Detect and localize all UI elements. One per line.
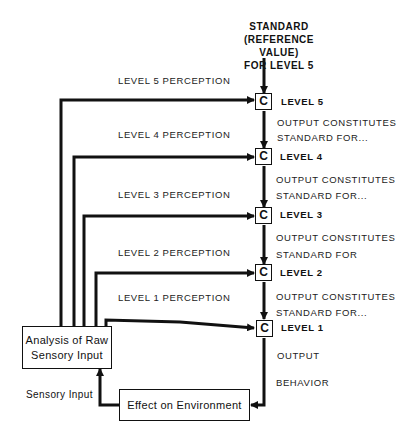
- analysis-box-line-1: Analysis of Raw: [26, 333, 109, 348]
- comparator-level-1: C: [256, 320, 273, 337]
- standard-reference-label: STANDARD (REFERENCE VALUE) FOR LEVEL 5: [224, 20, 334, 72]
- level-2-output-line-1: OUTPUT CONSTITUTES: [276, 292, 395, 302]
- level-2-output-line-2: STANDARD FOR...: [276, 308, 367, 318]
- behavior-label: BEHAVIOR: [276, 378, 329, 388]
- level-5-label: LEVEL 5: [281, 97, 324, 107]
- standard-line-1: STANDARD: [224, 20, 334, 33]
- comparator-level-5: C: [255, 93, 272, 110]
- level-4-perception-label: LEVEL 4 PERCEPTION: [118, 130, 230, 140]
- level-5-output-line-2: STANDARD FOR...: [277, 133, 368, 143]
- level-1-perception-label: LEVEL 1 PERCEPTION: [118, 293, 230, 303]
- effect-on-environment-label: Effect on Environment: [127, 399, 241, 411]
- level-1-label: LEVEL 1: [281, 323, 324, 333]
- standard-line-3: FOR LEVEL 5: [224, 59, 334, 72]
- level-4-label: LEVEL 4: [280, 152, 323, 162]
- comparator-level-4: C: [255, 148, 272, 165]
- analysis-raw-sensory-input-box: Analysis of Raw Sensory Input: [22, 326, 112, 369]
- level-3-label: LEVEL 3: [280, 210, 323, 220]
- level-3-output-line-1: OUTPUT CONSTITUTES: [276, 233, 395, 243]
- level-4-output-line-2: STANDARD FOR...: [276, 191, 367, 201]
- level-1-output-label: OUTPUT: [277, 351, 320, 361]
- level-5-perception-label: LEVEL 5 PERCEPTION: [118, 76, 230, 86]
- level-4-output-line-1: OUTPUT CONSTITUTES: [276, 175, 395, 185]
- standard-line-2: (REFERENCE VALUE): [224, 33, 334, 59]
- analysis-box-line-2: Sensory Input: [31, 348, 103, 363]
- sensory-input-label: Sensory Input: [26, 390, 93, 400]
- level-2-perception-label: LEVEL 2 PERCEPTION: [118, 248, 230, 258]
- level-5-output-line-1: OUTPUT CONSTITUTES: [277, 118, 396, 128]
- effect-on-environment-box: Effect on Environment: [119, 389, 250, 421]
- level-3-output-line-2: STANDARD FOR: [276, 250, 357, 260]
- comparator-level-3: C: [255, 207, 272, 224]
- level-2-label: LEVEL 2: [280, 268, 323, 278]
- comparator-level-2: C: [255, 264, 272, 281]
- connector-wires: [0, 0, 411, 442]
- level-3-perception-label: LEVEL 3 PERCEPTION: [118, 190, 230, 200]
